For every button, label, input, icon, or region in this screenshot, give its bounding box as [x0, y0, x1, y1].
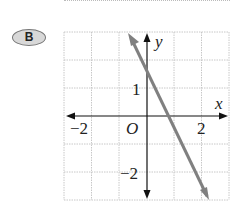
line-up-arrow-icon	[128, 33, 139, 46]
coordinate-graph: y x O 1 −2 2 −2	[0, 0, 240, 214]
x-axis-right-arrow-icon	[219, 113, 228, 120]
y-axis-down-arrow-icon	[144, 190, 151, 199]
origin-label: O	[126, 119, 138, 138]
y-axis-up-arrow-icon	[144, 33, 151, 42]
graph-line	[132, 40, 207, 196]
tick-label-x-neg2: −2	[70, 119, 88, 138]
x-axis-label: x	[214, 94, 223, 113]
tick-label-y-1: 1	[132, 80, 141, 99]
tick-label-y-neg2: −2	[120, 164, 138, 183]
y-axis-label: y	[153, 32, 163, 51]
tick-label-x-2: 2	[197, 119, 206, 138]
